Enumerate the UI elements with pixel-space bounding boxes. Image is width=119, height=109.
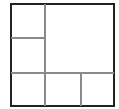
outer-square bbox=[10, 3, 115, 107]
vertical-divider-bottom-right bbox=[80, 73, 82, 106]
horizontal-divider-upper-left bbox=[11, 37, 45, 39]
horizontal-divider-bottom bbox=[11, 72, 114, 74]
vertical-divider-left bbox=[44, 4, 46, 106]
